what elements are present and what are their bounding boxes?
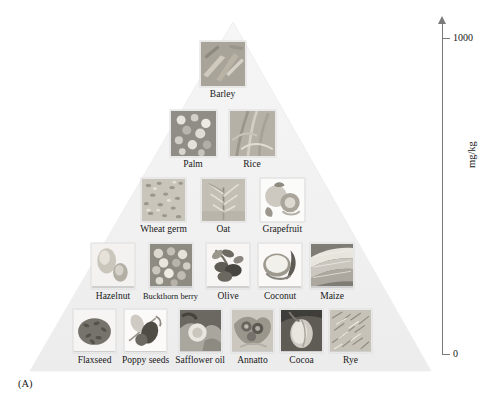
pyramid-item-oat[interactable]: Oat xyxy=(201,178,246,235)
pyramid-item-label: Hazelnut xyxy=(96,291,130,302)
pyramid-item-label: Coconut xyxy=(264,291,296,302)
axis-tick-label-bottom: 0 xyxy=(453,349,458,359)
panel-label: (A) xyxy=(18,378,33,389)
pyramid-item-olive[interactable]: Olive xyxy=(206,243,250,302)
pyramid-item-label: Palm xyxy=(183,159,203,170)
pyramid-item-safflower-oil[interactable]: Safflower oil xyxy=(175,309,225,366)
pyramid-item-label: Grapefruit xyxy=(263,224,303,235)
pyramid-item-buckthorn-berry[interactable]: Buckthorn berry xyxy=(143,243,198,302)
pyramid-item-label: Oat xyxy=(216,224,230,235)
pyramid-tiers: Barley Palm xyxy=(0,0,445,385)
axis-tick-bottom xyxy=(442,354,450,355)
barley-thumbnail xyxy=(200,41,246,87)
annatto-thumbnail xyxy=(231,309,274,353)
pyramid-item-hazelnut[interactable]: Hazelnut xyxy=(91,243,135,302)
pyramid-item-label: Safflower oil xyxy=(175,355,225,366)
pyramid-item-label: Poppy seeds xyxy=(122,355,169,366)
coconut-thumbnail xyxy=(258,243,302,289)
pyramid-tier-4: Hazelnut Buckthorn berry xyxy=(0,243,445,302)
pyramid-item-palm[interactable]: Palm xyxy=(170,110,217,170)
value-axis: 1000 0 mg/kg xyxy=(430,16,501,368)
pyramid-item-rice[interactable]: Rice xyxy=(229,110,276,170)
axis-tick-label-top: 1000 xyxy=(453,33,473,43)
poppy-seeds-thumbnail xyxy=(124,309,167,353)
rice-thumbnail xyxy=(229,110,276,157)
pyramid-tier-1: Barley xyxy=(0,41,445,100)
pyramid-tier-3: Wheat germ Oat xyxy=(0,178,445,235)
pyramid-tier-2: Palm Rice xyxy=(0,110,445,170)
flaxseed-thumbnail xyxy=(73,309,116,353)
pyramid-item-rye[interactable]: Rye xyxy=(329,309,372,366)
cocoa-thumbnail xyxy=(280,309,323,353)
palm-thumbnail xyxy=(170,110,217,157)
axis-title: mg/kg xyxy=(466,141,477,168)
pyramid-item-label: Annatto xyxy=(237,355,268,366)
pyramid-item-annatto[interactable]: Annatto xyxy=(231,309,274,366)
pyramid-item-label: Flaxseed xyxy=(78,355,112,366)
hazelnut-thumbnail xyxy=(91,243,135,289)
pyramid-item-wheat-germ[interactable]: Wheat germ xyxy=(140,178,187,235)
pyramid-item-label: Buckthorn berry xyxy=(143,291,198,302)
buckthorn-berry-thumbnail xyxy=(149,243,193,289)
pyramid-item-label: Rye xyxy=(343,355,358,366)
pyramid-tier-5: Flaxseed Poppy seeds xyxy=(0,309,445,366)
pyramid-item-coconut[interactable]: Coconut xyxy=(258,243,302,302)
rye-thumbnail xyxy=(329,309,372,353)
pyramid-item-label: Olive xyxy=(218,291,239,302)
pyramid-item-poppy-seeds[interactable]: Poppy seeds xyxy=(122,309,169,366)
olive-thumbnail xyxy=(206,243,250,289)
pyramid-item-label: Rice xyxy=(243,159,260,170)
oat-thumbnail xyxy=(201,178,246,222)
pyramid-figure: Barley Palm xyxy=(0,0,501,401)
pyramid-item-cocoa[interactable]: Cocoa xyxy=(280,309,323,366)
axis-line xyxy=(442,22,443,354)
grapefruit-thumbnail xyxy=(260,178,305,222)
pyramid-item-flaxseed[interactable]: Flaxseed xyxy=(73,309,116,366)
pyramid-item-label: Barley xyxy=(210,89,235,100)
pyramid-item-label: Maize xyxy=(320,291,344,302)
pyramid-item-grapefruit[interactable]: Grapefruit xyxy=(260,178,305,235)
pyramid-item-barley[interactable]: Barley xyxy=(200,41,246,100)
maize-thumbnail xyxy=(310,243,354,289)
pyramid-item-label: Wheat germ xyxy=(140,224,187,235)
axis-tick-top xyxy=(442,38,450,39)
pyramid-item-label: Cocoa xyxy=(289,355,313,366)
safflower-oil-thumbnail xyxy=(179,309,222,353)
pyramid-item-maize[interactable]: Maize xyxy=(310,243,354,302)
wheat-germ-thumbnail xyxy=(141,178,186,222)
